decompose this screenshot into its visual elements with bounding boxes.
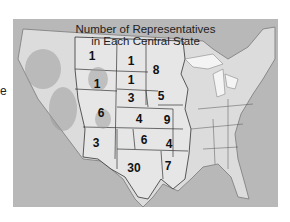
state-value-new-mexico: 3	[93, 136, 100, 150]
state-value-kansas: 4	[136, 112, 143, 126]
state-value-minnesota: 8	[153, 63, 160, 77]
state-value-texas: 30	[127, 161, 140, 175]
state-value-north-dakota: 1	[128, 54, 135, 68]
state-value-wyoming: 1	[94, 77, 101, 91]
state-value-nebraska: 3	[128, 91, 135, 105]
state-value-oklahoma: 6	[141, 133, 148, 147]
us-central-states-map: Number of Representatives in Each Centra…	[13, 19, 278, 207]
state-value-missouri: 9	[164, 113, 171, 127]
state-value-louisiana: 7	[165, 159, 172, 173]
state-value-arkansas: 4	[166, 137, 173, 151]
state-value-montana: 1	[89, 49, 96, 63]
map-title-line-1: Number of Representatives	[13, 23, 278, 35]
cropped-edge-text: e	[0, 84, 7, 98]
map-graphic	[13, 19, 278, 207]
map-title-line-2: in Each Central State	[13, 35, 278, 47]
state-value-iowa: 5	[158, 89, 165, 103]
state-value-south-dakota: 1	[128, 73, 135, 87]
state-value-colorado: 6	[98, 106, 105, 120]
